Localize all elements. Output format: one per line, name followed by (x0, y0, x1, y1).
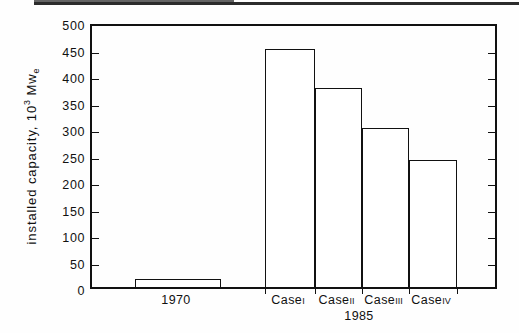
x-axis-category-label: 1970 (161, 293, 190, 307)
y-axis-tick-label: 50 (70, 258, 85, 272)
scan-artifact-line (34, 2, 519, 5)
y-axis-tick-right (488, 238, 495, 239)
x-axis-category-label: CaseIV (411, 293, 450, 307)
y-axis-tick-right (488, 132, 495, 133)
y-axis-tick-label: 300 (62, 125, 85, 139)
x-axis-tick (315, 287, 316, 294)
y-axis-title-prefix: installed capacity, 10 (24, 105, 39, 245)
y-axis-tick-right (488, 53, 495, 54)
y-axis-tick-label: 500 (62, 19, 85, 33)
y-axis-tick-label: 350 (62, 99, 85, 113)
x-axis-tick (409, 287, 410, 294)
x-axis-category-numeral: III (395, 296, 403, 306)
y-axis-tick (92, 265, 99, 266)
y-axis-tick (92, 106, 99, 107)
y-axis-tick-right (488, 265, 495, 266)
y-axis-title-text: installed capacity, 103 Mwe (23, 69, 42, 245)
bar (409, 160, 457, 287)
y-axis-tick (92, 238, 99, 239)
y-axis-tick (92, 53, 99, 54)
x-axis-category-numeral: IV (442, 296, 451, 306)
y-axis-tick-label: 200 (62, 178, 85, 192)
y-axis-tick-label: 400 (62, 72, 85, 86)
x-axis-category-numeral: II (349, 296, 354, 306)
y-axis-tick-right (488, 185, 495, 186)
y-axis-tick-right (488, 79, 495, 80)
y-axis-tick-right (488, 159, 495, 160)
x-axis-category-name: Case (319, 293, 350, 307)
y-axis-tick-label: 150 (62, 205, 85, 219)
y-axis-tick-label: 100 (62, 231, 85, 245)
x-axis-category-label: CaseI (271, 293, 304, 307)
bar (135, 279, 221, 287)
y-axis-title: installed capacity, 103 Mwe (22, 24, 42, 289)
y-axis-tick (92, 79, 99, 80)
bar (265, 49, 315, 288)
y-axis-tick-right (488, 106, 495, 107)
bar (362, 128, 409, 287)
x-axis-tick (457, 287, 458, 294)
x-axis-category-name: Case (364, 293, 395, 307)
y-axis-tick (92, 212, 99, 213)
y-axis-tick (92, 132, 99, 133)
x-axis-category-name: Case (411, 293, 442, 307)
y-axis-title-unit-subscript: e (31, 69, 41, 74)
y-axis-tick-label: 0 (77, 284, 85, 298)
y-axis-title-exponent: 3 (23, 100, 33, 105)
scan-artifact-line-secondary (34, 0, 234, 2)
y-axis-tick-right (488, 212, 495, 213)
y-axis-title-unit: Mw (24, 73, 39, 100)
x-axis-group-label: 1985 (344, 309, 373, 323)
y-axis-tick (92, 185, 99, 186)
x-axis-category-label: CaseIII (364, 293, 402, 307)
bar (315, 88, 362, 287)
plot-area: 050100150200250300350400450500 (90, 24, 497, 289)
y-axis-tick-label: 250 (62, 152, 85, 166)
x-axis-category-numeral: I (302, 296, 305, 306)
x-axis-tick (362, 287, 363, 294)
x-axis-category-label: CaseII (319, 293, 355, 307)
figure-bar-chart: installed capacity, 103 Mwe 050100150200… (0, 0, 519, 333)
x-axis-category-name: Case (271, 293, 302, 307)
y-axis-tick-label: 450 (62, 46, 85, 60)
x-axis-tick (265, 287, 266, 294)
y-axis-tick (92, 159, 99, 160)
